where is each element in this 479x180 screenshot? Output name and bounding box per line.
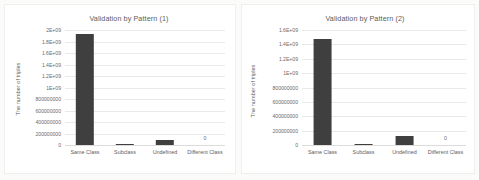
plot-area-2: 02000000004000000006000000008000000001E+… xyxy=(302,30,466,145)
y-axis-title-2: The number of triples xyxy=(250,49,256,133)
bar-series-1: 0 xyxy=(65,30,225,145)
y-axis-tick-label: 200000000 xyxy=(36,131,62,137)
bar-value-label: 0 xyxy=(204,135,207,141)
x-axis-tick-label: Same Class xyxy=(308,149,337,155)
bar xyxy=(395,136,414,145)
y-axis-tick-label: 1.8E+09 xyxy=(42,39,61,45)
y-axis-tick-label: 1.4E+09 xyxy=(42,62,61,68)
x-axis-tick-label: Different Class xyxy=(187,149,222,155)
y-axis-tick-label: 0 xyxy=(58,142,61,148)
y-axis-title-1: The number of triples xyxy=(15,47,21,131)
x-axis-tick-label: Different Class xyxy=(428,149,463,155)
bar-slot xyxy=(302,30,343,145)
bar-slot: 0 xyxy=(425,30,466,145)
x-axis-tick-label: Undefined xyxy=(153,149,178,155)
y-axis-tick-label: 1.4E+09 xyxy=(279,41,298,47)
y-axis-tick-label: 1E+09 xyxy=(283,70,298,76)
plot-area-1: 02000000004000000006000000008000000001E+… xyxy=(65,30,225,145)
y-axis-tick-label: 400000000 xyxy=(273,113,299,119)
x-axis-tick-label: Undefined xyxy=(392,149,417,155)
y-axis-tick-label: 2E+09 xyxy=(46,27,61,33)
y-axis-tick-label: 800000000 xyxy=(36,96,62,102)
y-axis-tick-label: 1.6E+09 xyxy=(42,50,61,56)
bar xyxy=(116,144,134,145)
y-axis-tick-label: 600000000 xyxy=(273,99,299,105)
y-axis-tick-label: 200000000 xyxy=(273,128,299,134)
figure-container: Validation by Pattern (1) The number of … xyxy=(0,0,479,180)
bar-slot xyxy=(384,30,425,145)
chart-panel-1: Validation by Pattern (1) The number of … xyxy=(4,4,236,174)
bar-value-label: 0 xyxy=(444,135,447,141)
y-axis-tick-label: 600000000 xyxy=(36,108,62,114)
y-axis-tick-label: 1.2E+09 xyxy=(42,73,61,79)
chart-panel-2: Validation by Pattern (2) The number of … xyxy=(241,4,475,174)
chart-title-1: Validation by Pattern (1) xyxy=(5,14,235,23)
bar-series-2: 0 xyxy=(302,30,466,145)
bar xyxy=(156,140,174,145)
y-axis-tick-label: 400000000 xyxy=(36,119,62,125)
x-axis-tick-label: Subclass xyxy=(353,149,375,155)
x-axis-tick-label: Subclass xyxy=(114,149,136,155)
bar xyxy=(354,144,373,145)
bar xyxy=(76,34,94,145)
bar-slot xyxy=(65,30,105,145)
y-axis-tick-label: 1E+09 xyxy=(46,85,61,91)
gridline xyxy=(65,145,225,146)
bar-slot xyxy=(105,30,145,145)
bar-slot xyxy=(145,30,185,145)
y-axis-tick-label: 800000000 xyxy=(273,85,299,91)
gridline xyxy=(302,145,466,146)
bar-slot: 0 xyxy=(185,30,225,145)
y-axis-tick-label: 0 xyxy=(295,142,298,148)
chart-title-2: Validation by Pattern (2) xyxy=(242,14,474,23)
bar xyxy=(313,39,332,145)
bar-slot xyxy=(343,30,384,145)
y-axis-tick-label: 1.2E+09 xyxy=(279,56,298,62)
y-axis-tick-label: 1.6E+09 xyxy=(279,27,298,33)
x-axis-tick-label: Same Class xyxy=(70,149,99,155)
